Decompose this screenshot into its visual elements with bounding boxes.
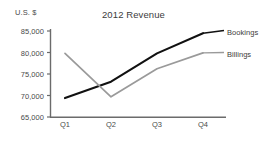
plot-area xyxy=(0,0,267,143)
legend-label-bookings: Bookings xyxy=(227,28,258,37)
legend-connector-bookings xyxy=(203,31,224,34)
revenue-line-chart: U.S. $ 2012 Revenue 85,000 80,000 75,000… xyxy=(0,0,267,143)
legend-label-billings: Billings xyxy=(227,50,251,59)
axis-lines xyxy=(50,29,226,118)
series-line-bookings xyxy=(65,33,203,98)
